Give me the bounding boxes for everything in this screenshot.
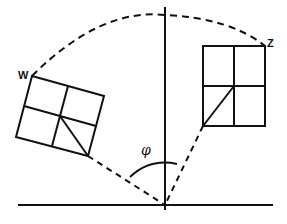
diagram-canvas xyxy=(0,0,287,224)
radius-right xyxy=(165,126,203,205)
right-rectangle xyxy=(203,46,265,126)
angle-arc xyxy=(130,163,177,177)
label-z: Z xyxy=(267,37,274,49)
label-w: W xyxy=(18,69,28,81)
left-square xyxy=(16,76,104,156)
label-phi: φ xyxy=(141,142,151,158)
